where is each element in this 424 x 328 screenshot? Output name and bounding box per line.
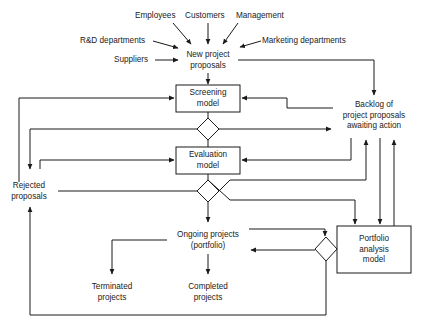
ongoing-line1: Ongoing projects [168, 230, 248, 241]
backlog-line2: project proposals [334, 111, 414, 122]
arrow-management [223, 23, 238, 44]
arrow-marketing [240, 41, 261, 47]
arrow-to-terminated [112, 240, 167, 274]
portfolio-line2: analysis [337, 245, 411, 256]
ongoing-line2: (portfolio) [168, 241, 248, 252]
source-management: Management [236, 11, 284, 22]
screening-line1: Screening [176, 88, 240, 99]
backlog-line1: Backlog of [334, 100, 414, 111]
portfolio-line3: model [337, 255, 411, 266]
source-marketing-departments: Marketing departments [262, 36, 346, 47]
new-proposals-line2: proposals [180, 61, 236, 72]
completed-line1: Completed [178, 282, 238, 293]
screening-decision-diamond[interactable] [197, 118, 219, 140]
arrow-employees [173, 23, 191, 44]
rejected-proposals[interactable]: Rejected proposals [4, 181, 54, 202]
arrow-backlog-to-evaluation [242, 138, 351, 160]
completed-projects[interactable]: Completed projects [178, 282, 238, 303]
completed-line2: projects [178, 293, 238, 304]
source-customers: Customers [185, 11, 225, 22]
source-suppliers: Suppliers [114, 55, 148, 66]
rejected-line2: proposals [4, 192, 54, 203]
source-employees: Employees [135, 11, 176, 22]
ongoing-projects[interactable]: Ongoing projects (portfolio) [168, 230, 248, 251]
arrow-ongoing-to-portfolio-decision [249, 229, 325, 236]
backlog-of-proposals[interactable]: Backlog of project proposals awaiting ac… [334, 100, 414, 132]
portfolio-analysis-model-label[interactable]: Portfolio analysis model [337, 234, 411, 266]
arrow-rejected-to-screening [19, 98, 174, 182]
new-project-proposals[interactable]: New project proposals [180, 50, 236, 71]
backlog-line3: awaiting action [334, 121, 414, 132]
portfolio-decision-diamond[interactable] [315, 237, 337, 261]
rejected-line1: Rejected [4, 181, 54, 192]
arrow-to-backlog [238, 60, 374, 95]
arrow-evaluation-to-portfolio [208, 180, 355, 224]
source-rd-departments: R&D departments [80, 36, 145, 47]
terminated-line2: projects [82, 293, 142, 304]
new-proposals-line1: New project [180, 50, 236, 61]
arrow-rejected-to-evaluation [40, 160, 174, 169]
arrow-screening-reject [30, 129, 197, 169]
arrow-backlog-to-screening [247, 98, 333, 108]
evaluation-line1: Evaluation [176, 150, 240, 161]
evaluation-model-label[interactable]: Evaluation model [176, 150, 240, 171]
evaluation-decision-diamond[interactable] [197, 180, 219, 202]
portfolio-line1: Portfolio [337, 234, 411, 245]
terminated-projects[interactable]: Terminated projects [82, 282, 142, 303]
terminated-line1: Terminated [82, 282, 142, 293]
arrow-rd [153, 41, 178, 48]
screening-model-label[interactable]: Screening model [176, 88, 240, 109]
screening-line2: model [176, 99, 240, 110]
evaluation-line2: model [176, 161, 240, 172]
